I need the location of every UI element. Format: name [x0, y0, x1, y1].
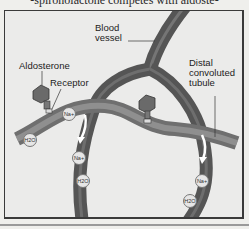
label-aldosterone: Aldosterone	[19, 61, 70, 71]
water-molecule-icon-2: H2O	[76, 174, 90, 188]
diagram-graphics	[5, 11, 244, 219]
label-blood-vessel-line2: vessel	[95, 33, 122, 43]
page-rule	[0, 224, 249, 226]
label-receptor: Receptor	[50, 78, 89, 88]
aldosterone-molecule-icon	[33, 85, 49, 103]
label-blood-vessel: Blood vessel	[95, 23, 122, 43]
label-distal-line3: tubule	[189, 78, 235, 88]
sodium-ion-icon-2: Na+	[72, 151, 86, 165]
sodium-ion-icon-3: Na+	[195, 174, 209, 188]
sodium-ion-icon: Na+	[62, 107, 76, 121]
aldosterone-molecule-icon-2	[139, 95, 155, 113]
water-molecule-icon: H2O	[23, 133, 37, 147]
diagram-figure: Blood vessel Aldosterone Receptor Distal…	[4, 10, 244, 219]
caption-text: -spironolactone competes with aldoste-	[0, 0, 249, 8]
label-distal-tubule: Distal convoluted tubule	[189, 58, 235, 88]
water-molecule-icon-3: H2O	[183, 194, 197, 208]
